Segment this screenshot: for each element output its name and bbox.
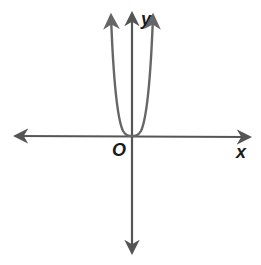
y-axis-label: y [141,10,151,28]
graph-svg [0,0,261,265]
graph-figure: y O x [0,0,261,265]
origin-label: O [112,141,126,159]
x-axis-label: x [236,143,246,161]
